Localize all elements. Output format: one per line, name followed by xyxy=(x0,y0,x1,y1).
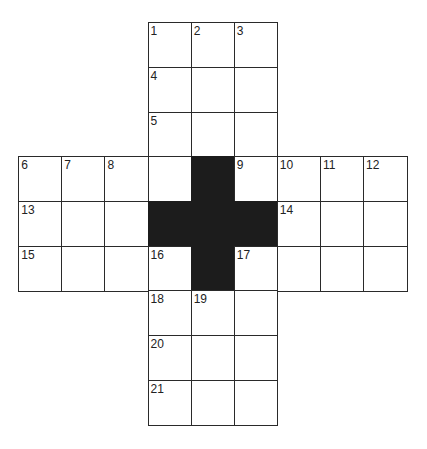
black-square xyxy=(191,201,236,247)
crossword-cell[interactable]: 12 xyxy=(363,156,408,202)
clue-number: 13 xyxy=(21,204,34,216)
clue-number: 4 xyxy=(151,70,158,82)
crossword-cell[interactable] xyxy=(191,380,236,426)
black-square xyxy=(191,156,236,202)
crossword-cell[interactable] xyxy=(61,201,106,247)
crossword-cell[interactable]: 11 xyxy=(320,156,365,202)
crossword-cell[interactable]: 2 xyxy=(191,22,236,68)
crossword-cell[interactable] xyxy=(320,201,365,247)
crossword-cell[interactable]: 8 xyxy=(104,156,149,202)
clue-number: 2 xyxy=(194,25,201,37)
crossword-cell[interactable]: 1 xyxy=(148,22,193,68)
crossword-cell[interactable]: 20 xyxy=(148,335,193,381)
clue-number: 8 xyxy=(107,159,114,171)
crossword-cell[interactable]: 15 xyxy=(18,246,63,292)
crossword-cell[interactable] xyxy=(61,246,106,292)
crossword-cell[interactable] xyxy=(148,156,193,202)
crossword-cell[interactable] xyxy=(234,380,279,426)
crossword-cell[interactable]: 14 xyxy=(277,201,322,247)
crossword-grid: 123456789101112131415161718192021 xyxy=(0,0,427,449)
crossword-cell[interactable]: 7 xyxy=(61,156,106,202)
crossword-cell[interactable]: 5 xyxy=(148,112,193,158)
crossword-cell[interactable]: 10 xyxy=(277,156,322,202)
crossword-cell[interactable]: 4 xyxy=(148,67,193,113)
crossword-cell[interactable] xyxy=(363,246,408,292)
clue-number: 12 xyxy=(366,159,379,171)
clue-number: 18 xyxy=(151,293,164,305)
crossword-cell[interactable] xyxy=(191,67,236,113)
clue-number: 11 xyxy=(323,159,335,171)
crossword-cell[interactable]: 13 xyxy=(18,201,63,247)
black-square xyxy=(234,201,279,247)
clue-number: 9 xyxy=(237,159,244,171)
clue-number: 16 xyxy=(151,249,164,261)
clue-number: 14 xyxy=(280,204,293,216)
crossword-cell[interactable] xyxy=(191,112,236,158)
crossword-cell[interactable] xyxy=(104,246,149,292)
crossword-cell[interactable] xyxy=(363,201,408,247)
crossword-cell[interactable] xyxy=(320,246,365,292)
crossword-cell[interactable]: 9 xyxy=(234,156,279,202)
crossword-cell[interactable] xyxy=(234,112,279,158)
clue-number: 10 xyxy=(280,159,293,171)
crossword-cell[interactable]: 21 xyxy=(148,380,193,426)
clue-number: 5 xyxy=(151,115,158,127)
crossword-cell[interactable] xyxy=(191,335,236,381)
crossword-cell[interactable] xyxy=(234,335,279,381)
crossword-cell[interactable]: 16 xyxy=(148,246,193,292)
clue-number: 1 xyxy=(151,25,158,37)
crossword-cell[interactable]: 19 xyxy=(191,290,236,336)
clue-number: 6 xyxy=(21,159,28,171)
clue-number: 17 xyxy=(237,249,250,261)
clue-number: 3 xyxy=(237,25,244,37)
black-square xyxy=(191,246,236,292)
crossword-cell[interactable]: 18 xyxy=(148,290,193,336)
clue-number: 15 xyxy=(21,249,34,261)
crossword-cell[interactable]: 3 xyxy=(234,22,279,68)
clue-number: 7 xyxy=(64,159,71,171)
clue-number: 19 xyxy=(194,293,207,305)
crossword-cell[interactable] xyxy=(277,246,322,292)
clue-number: 21 xyxy=(151,383,164,395)
black-square xyxy=(148,201,193,247)
crossword-cell[interactable]: 17 xyxy=(234,246,279,292)
clue-number: 20 xyxy=(151,338,164,350)
crossword-cell[interactable] xyxy=(234,290,279,336)
crossword-cell[interactable] xyxy=(104,201,149,247)
crossword-cell[interactable] xyxy=(234,67,279,113)
crossword-cell[interactable]: 6 xyxy=(18,156,63,202)
